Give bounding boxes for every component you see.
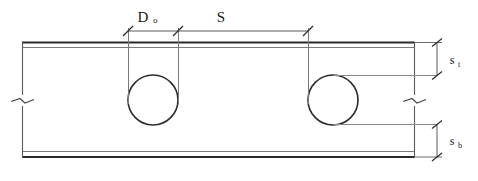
right-dimension-st-group xyxy=(432,39,442,80)
label-st-symbol: s xyxy=(450,53,455,67)
label-S-symbol: S xyxy=(217,9,225,25)
label-Do-subscript: o xyxy=(153,15,158,25)
engineering-drawing-canvas: D o S s t s b xyxy=(0,0,478,181)
top-flange-plate xyxy=(22,43,414,48)
label-Do-symbol: D xyxy=(138,9,149,25)
label-hole-diameter: D o xyxy=(138,9,158,25)
top-dimension-extension-lines xyxy=(129,28,309,104)
label-hole-spacing: S xyxy=(217,9,225,25)
bottom-flange-plate xyxy=(22,152,414,158)
circular-opening-2 xyxy=(308,75,358,125)
flange-extension-lines xyxy=(414,43,442,158)
hole-2-extension-lines xyxy=(333,76,437,125)
label-bottom-edge-distance: s b xyxy=(450,134,462,150)
label-sb-subscript: b xyxy=(458,141,462,150)
circular-opening-1 xyxy=(128,75,178,125)
top-dimension-line-group xyxy=(123,26,313,36)
right-end-boundary xyxy=(403,42,426,159)
label-st-subscript: t xyxy=(458,60,461,69)
section-detail-diagram: D o S s t s b xyxy=(0,0,478,181)
right-dimension-sb-group xyxy=(432,121,442,162)
label-top-edge-distance: s t xyxy=(450,53,461,69)
break-line-right xyxy=(403,99,426,104)
break-line-left xyxy=(11,99,34,104)
label-sb-symbol: s xyxy=(450,134,455,148)
left-end-boundary xyxy=(11,42,34,159)
